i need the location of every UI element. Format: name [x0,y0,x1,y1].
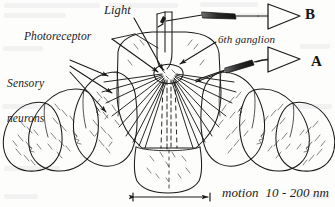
scale-bar [133,193,210,201]
electrode-a-assembly [196,59,268,80]
amplifier-triangle-icon-b [268,4,300,29]
label-motion-scale: motion 10 - 200 nm [222,186,329,199]
leader-arrow-icon [134,18,163,70]
label-light: Light [104,4,131,17]
nerve-fibre-fan [102,74,236,190]
amplifier-triangle-icon-a [268,47,300,72]
label-sensory-neurons-line2: neurons [7,113,44,125]
leader-arrow-icon [70,60,108,76]
microelectrode-icon [225,60,254,73]
label-sixth-ganglion: 6th ganglion [218,34,275,45]
label-sensory-neurons: Sensory neurons [7,54,44,149]
microelectrode-icon [202,12,236,19]
label-photoreceptor: Photoreceptor [24,31,91,43]
amplifier-label-a: A [311,53,322,70]
figure-diagram: Light Photoreceptor Sensory neurons 6th … [0,0,335,207]
lobe-margin-serration [29,107,309,152]
amplifier-label-b: B [305,6,315,23]
label-sensory-neurons-line1: Sensory [7,78,44,90]
leader-arrow-icon [180,42,216,64]
